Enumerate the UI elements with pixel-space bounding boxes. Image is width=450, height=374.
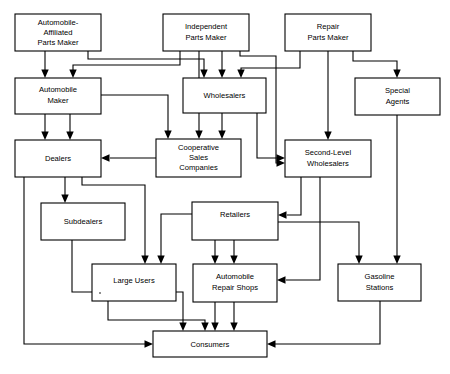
connector-retailers-to-large-users — [157, 214, 192, 264]
connector-repair-shops-to-consumers-right — [230, 302, 237, 331]
node-label-line: Stations — [366, 283, 394, 292]
node-label-line: Subdealers — [64, 217, 103, 226]
connector-ipm-to-wholesalers — [218, 51, 225, 78]
node-automobile-repair-shops[interactable]: Automobile Repair Shops — [193, 264, 277, 302]
node-label-line: Second-Level — [305, 148, 352, 157]
node-wholesalers[interactable]: Wholesalers — [183, 78, 266, 113]
node-label-line: Independent — [185, 22, 228, 31]
node-label-line: Dealers — [45, 154, 71, 163]
connector-rpm-to-wholesalers — [237, 51, 300, 78]
connector-wholesalers-to-coop — [218, 113, 225, 139]
node-label-line: Parts Maker — [308, 33, 349, 42]
connector-large-users-to-consumers — [108, 301, 209, 331]
node-label-line: Gasoline — [365, 272, 395, 281]
node-retailers[interactable]: Retailers — [192, 202, 278, 240]
connector-gasoline-to-consumers — [267, 301, 380, 348]
connector-aapm-to-automaker — [41, 51, 48, 78]
flowchart-diagram: Automobile- Affiliated Parts Maker Indep… — [0, 0, 450, 374]
node-large-users[interactable]: Large Users — [92, 264, 176, 301]
connector-automaker-to-dealers-right — [66, 114, 73, 140]
connector-secondlevel-to-retailers — [278, 177, 301, 219]
node-label-line: Consumers — [191, 340, 230, 349]
flowchart-canvas: Automobile- Affiliated Parts Maker Indep… — [0, 0, 450, 374]
node-automobile-maker[interactable]: Automobile Maker — [15, 78, 101, 114]
node-label-line: Large Users — [113, 276, 155, 285]
node-label-line: Wholesalers — [307, 159, 349, 168]
node-label-line: Retailers — [220, 210, 250, 219]
connector-retailers-to-repair-shops-right — [230, 240, 237, 264]
node-label-line: Agents — [386, 97, 410, 106]
node-gasoline-stations[interactable]: Gasoline Stations — [338, 264, 421, 301]
node-repair-parts-maker[interactable]: Repair Parts Maker — [285, 14, 371, 51]
node-label-line: Companies — [179, 163, 218, 172]
connector-wholesalers-to-secondlevel — [257, 113, 285, 162]
node-label-line: Repair — [317, 22, 340, 31]
connector-special-agents-to-gasoline — [393, 115, 400, 264]
node-automobile-affiliated-parts-maker[interactable]: Automobile- Affiliated Parts Maker — [15, 14, 101, 51]
node-label-line: Wholesalers — [204, 91, 246, 100]
node-special-agents[interactable]: Special Agents — [355, 78, 440, 115]
connector-retailers-to-repair-shops-left — [211, 240, 218, 264]
node-subdealers[interactable]: Subdealers — [41, 203, 125, 240]
connector-ipm-to-automaker — [69, 51, 180, 78]
connector-rpm-to-special-agents — [353, 51, 401, 78]
node-label-line: Repair Shops — [212, 283, 258, 292]
ink-speck — [99, 292, 101, 294]
node-cooperative-sales-companies[interactable]: Cooperative Sales Companies — [156, 139, 241, 177]
node-second-level-wholesalers[interactable]: Second-Level Wholesalers — [285, 140, 371, 177]
node-label-line: Sales — [189, 153, 208, 162]
node-label-line: Automobile — [216, 272, 254, 281]
node-dealers[interactable]: Dealers — [15, 140, 101, 177]
node-label-line: Parts Maker — [38, 38, 79, 47]
node-label-line: Automobile — [39, 85, 77, 94]
node-label-line: Cooperative — [178, 143, 219, 152]
connector-repair-shops-to-consumers-left — [211, 302, 218, 331]
connector-secondlevel-to-repair-shops — [277, 177, 320, 284]
node-label-line: Parts Maker — [186, 33, 227, 42]
node-label-line: Automobile- — [38, 18, 79, 27]
connector-automaker-to-dealers-left — [41, 114, 48, 140]
node-independent-parts-maker[interactable]: Independent Parts Maker — [163, 14, 249, 51]
node-consumers[interactable]: Consumers — [153, 331, 267, 357]
node-label-line: Affiliated — [44, 28, 73, 37]
connector-rpm-to-secondlevel — [324, 51, 331, 140]
node-label-line: Special — [385, 86, 410, 95]
node-label-line: Maker — [47, 96, 69, 105]
connector-coop-to-dealers — [101, 154, 156, 161]
connector-automaker-to-coop — [101, 95, 172, 139]
connector-dealers-to-subdealers — [61, 177, 68, 203]
